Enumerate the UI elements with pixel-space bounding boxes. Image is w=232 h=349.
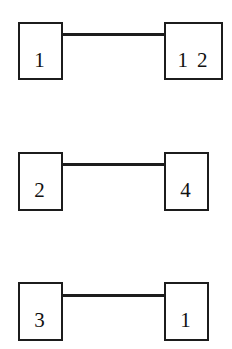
node-label: 1 2 [178,50,210,71]
node-label: 3 [34,310,46,331]
node-box-left[interactable]: 3 [18,282,63,341]
diagram-canvas: 1 1 2 2 4 3 1 [0,0,232,349]
connector-line [60,33,168,36]
connector-line [60,294,168,297]
node-box-right[interactable]: 1 [164,282,209,341]
node-box-left[interactable]: 2 [18,152,63,211]
node-label: 1 [180,310,192,331]
node-box-right[interactable]: 4 [164,152,209,211]
node-label: 4 [180,180,192,201]
node-pair-row: 1 1 2 [0,0,232,120]
node-label: 1 [34,50,46,71]
connector-line [60,163,168,166]
node-pair-row: 2 4 [0,130,232,250]
node-box-right[interactable]: 1 2 [164,22,223,80]
node-pair-row: 3 1 [0,260,232,349]
node-label: 2 [34,180,46,201]
node-box-left[interactable]: 1 [18,22,63,80]
